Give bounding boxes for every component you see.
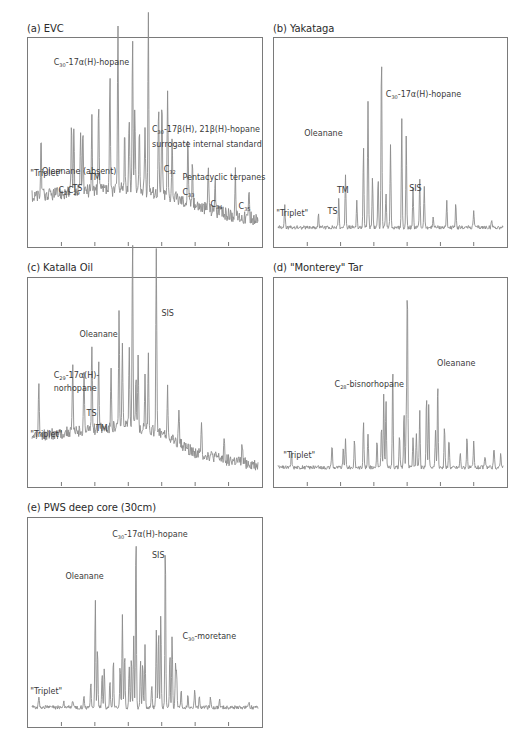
peak-annotation: Oleanane — [79, 330, 117, 339]
peak-annotation: C32 — [164, 165, 176, 175]
chromatogram-svg: C30-17α(H)-hopaneOleananeTMSISTS"Triplet… — [274, 38, 507, 247]
peak-annotation: SIS — [409, 184, 422, 193]
peak-annotation: Oleanane — [65, 572, 103, 581]
chromatogram-svg: SISOleananeC29-17α(H)-norhopaneTSTM"Trip… — [28, 278, 262, 487]
peak-annotation: TS — [327, 207, 338, 216]
peak-annotation: Oleanane — [304, 129, 342, 138]
peak-annotation: Oleanane — [437, 359, 475, 368]
chromatogram-plot: SISOleananeC29-17α(H)-norhopaneTSTM"Trip… — [27, 277, 263, 488]
peak-annotation: SIS — [161, 309, 174, 318]
peak-annotation: TM — [336, 186, 349, 195]
peak-annotation: "Triplet" — [283, 451, 315, 460]
chromatogram-svg: C30-17α(H)-hopaneC30-17β(H), 21β(H)-hopa… — [28, 38, 262, 247]
peak-annotation: norhopane — [54, 384, 97, 393]
panel-title: (e) PWS deep core (30cm) — [27, 502, 156, 513]
chromatogram-plot: C30-17α(H)-hopaneSISOleananeC30-moretane… — [27, 517, 263, 728]
peak-annotation: TM — [95, 424, 108, 433]
peak-annotation: "Triplet" — [276, 209, 308, 218]
peak-annotation: "Triplet" — [30, 687, 62, 696]
panel-title: (b) Yakataga — [273, 23, 334, 34]
peak-annotation: surrogate internal standard — [152, 140, 262, 149]
peak-annotation: C30-moretane — [182, 632, 236, 642]
peak-annotation: TM — [88, 173, 101, 182]
panel-title: (c) Katalla Oil — [27, 262, 93, 273]
peak-annotation: "Triplet" — [30, 169, 62, 178]
peak-annotation: C30-17α(H)-hopane — [112, 530, 187, 540]
peak-annotation: SIS — [152, 551, 165, 560]
peak-annotation: C30-17β(H), 21β(H)-hopane — [152, 125, 260, 135]
chromatogram-svg: C30-17α(H)-hopaneSISOleananeC30-moretane… — [28, 518, 262, 727]
panel-title: (d) "Monterey" Tar — [273, 262, 363, 273]
peak-annotation: C34 — [211, 200, 223, 210]
peak-annotation: C28-bisnorhopane — [335, 380, 404, 390]
peak-annotation: C33 — [182, 188, 194, 198]
chromatogram-plot: C30-17α(H)-hopaneOleananeTMSISTS"Triplet… — [273, 37, 508, 248]
chromatogram-trace — [32, 245, 258, 470]
peak-annotation: C29-17α(H)- — [54, 371, 100, 381]
peak-annotation: "Triplet" — [30, 430, 62, 439]
peak-annotation: Pentacyclic terpanes — [182, 173, 265, 182]
peak-annotation: C30-17α(H)-hopane — [386, 90, 461, 100]
chromatogram-plot: OleananeC28-bisnorhopane"Triplet" — [273, 277, 508, 488]
peak-annotation: TS — [86, 409, 97, 418]
chromatogram-svg: OleananeC28-bisnorhopane"Triplet" — [274, 278, 507, 487]
chromatogram-plot: C30-17α(H)-hopaneC30-17β(H), 21β(H)-hopa… — [27, 37, 263, 248]
panel-title: (a) EVC — [27, 23, 64, 34]
peak-annotation: C30-17α(H)-hopane — [54, 58, 129, 68]
